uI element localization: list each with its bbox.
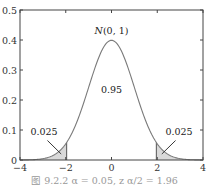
x-tick-label: −2 <box>59 162 73 173</box>
right-tail-pointer <box>162 141 176 155</box>
y-tick-label: 0.3 <box>2 65 17 76</box>
curve-label: N(0, 1) <box>94 25 129 36</box>
y-tick-label: 0 <box>11 155 17 166</box>
y-tick-label: 0.1 <box>2 125 17 136</box>
y-tick-label: 0.2 <box>2 95 17 106</box>
density-curve <box>20 40 203 160</box>
normal-distribution-chart: −4−202400.10.20.30.40.5N(0, 1)0.950.0250… <box>0 0 209 191</box>
right-tail-label: 0.025 <box>165 126 192 137</box>
left-tail-pointer <box>47 141 61 155</box>
y-tick-label: 0.5 <box>2 5 17 16</box>
figure-caption: 图 9.2.2 α = 0.05, z α/2 = 1.96 <box>0 173 209 187</box>
x-tick-label: 4 <box>200 162 206 173</box>
left-tail-label: 0.025 <box>30 126 57 137</box>
x-tick-label: 2 <box>154 162 160 173</box>
center-area-label: 0.95 <box>101 84 122 95</box>
y-tick-label: 0.4 <box>2 35 17 46</box>
x-tick-label: 0 <box>108 162 114 173</box>
